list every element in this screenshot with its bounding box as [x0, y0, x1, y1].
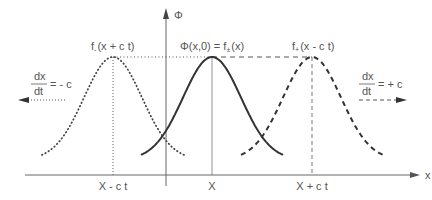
svg-text:Φ(x,0) = f±(x): Φ(x,0) = f±(x): [180, 40, 244, 53]
left-velocity-numerator: dx: [34, 70, 46, 82]
right-velocity-denominator: dt: [362, 85, 371, 97]
x-axis-arrow-icon: [410, 172, 420, 178]
y-axis-label: Φ: [174, 9, 183, 21]
right-curve-label: f+(x - c t): [292, 40, 334, 53]
center-label-sub: ±: [226, 46, 230, 53]
x-axis: x: [25, 169, 431, 181]
left-velocity-denominator: dt: [34, 85, 43, 97]
right-arrow-icon: [396, 97, 407, 103]
left-label-arg: (x + c t): [97, 40, 134, 52]
left-velocity-value: = - c: [50, 78, 72, 90]
svg-text:f-(x + c t): f-(x + c t): [91, 40, 134, 53]
x-tick-center: X: [208, 180, 216, 192]
right-label-arg: (x - c t): [300, 40, 334, 52]
x-tick-left: X - c t: [99, 180, 128, 192]
left-velocity: dx dt = - c: [18, 70, 72, 103]
diagram-canvas: x Φ f-(x + c t) Φ(x,0) = f±(x) f+(x - c …: [0, 0, 432, 200]
right-label-sub: +: [295, 46, 299, 53]
y-axis-arrow-icon: [163, 8, 169, 19]
y-axis: Φ: [163, 8, 183, 186]
right-velocity-numerator: dx: [362, 70, 374, 82]
x-axis-label: x: [425, 169, 431, 181]
center-label-main: Φ(x,0) = f: [180, 40, 227, 52]
right-velocity-value: = + c: [378, 78, 403, 90]
left-arrow-icon: [18, 97, 29, 103]
wave-diagram: x Φ f-(x + c t) Φ(x,0) = f±(x) f+(x - c …: [0, 0, 432, 200]
svg-text:f+(x - c t): f+(x - c t): [292, 40, 334, 53]
left-curve-label: f-(x + c t): [91, 40, 134, 53]
x-tick-right: X + c t: [296, 180, 328, 192]
center-label-arg: (x): [231, 40, 244, 52]
right-velocity: dx dt = + c: [359, 70, 407, 103]
center-curve-label: Φ(x,0) = f±(x): [180, 40, 244, 53]
